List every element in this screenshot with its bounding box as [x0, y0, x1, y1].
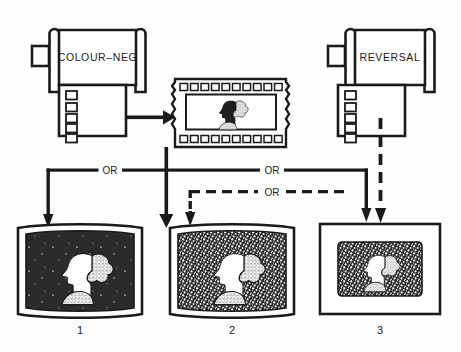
connector-strip-to-print2	[159, 147, 173, 228]
or-label-right: OR	[265, 165, 280, 176]
dashed-stub-to-print2	[185, 190, 195, 226]
print-2-number: 2	[229, 324, 235, 336]
output-print-1: 1	[18, 224, 142, 336]
cassette-label-reversal: REVERSAL	[360, 51, 421, 63]
film-process-diagram: COLOUR–NEG REVERSAL	[0, 0, 461, 352]
arrowhead-reversal-slide3	[375, 208, 386, 223]
or-label-dashed: OR	[265, 187, 280, 198]
or-label-left: OR	[103, 165, 118, 176]
cassette-label-colour-neg: COLOUR–NEG	[58, 51, 138, 63]
connector-or-left: OR	[43, 165, 166, 228]
negative-film-strip	[172, 79, 289, 147]
cassette-spool-knob-left	[32, 46, 49, 66]
reversal-leader-sprocket-holes	[345, 91, 356, 143]
leader-sprocket-holes	[66, 91, 77, 143]
diagram-canvas: COLOUR–NEG REVERSAL	[0, 0, 461, 352]
connector-or-dashed: OR	[185, 187, 345, 227]
output-slide-3: 3	[320, 224, 440, 336]
output-print-2: 2	[170, 224, 294, 336]
slide-3-number: 3	[377, 324, 383, 336]
film-frame-image	[186, 95, 276, 130]
arrow-cassette-to-strip	[126, 110, 176, 124]
film-cassette-colour-neg: COLOUR–NEG	[32, 29, 146, 143]
reversal-spool-knob-left	[328, 46, 345, 66]
print-1-number: 1	[77, 324, 83, 336]
